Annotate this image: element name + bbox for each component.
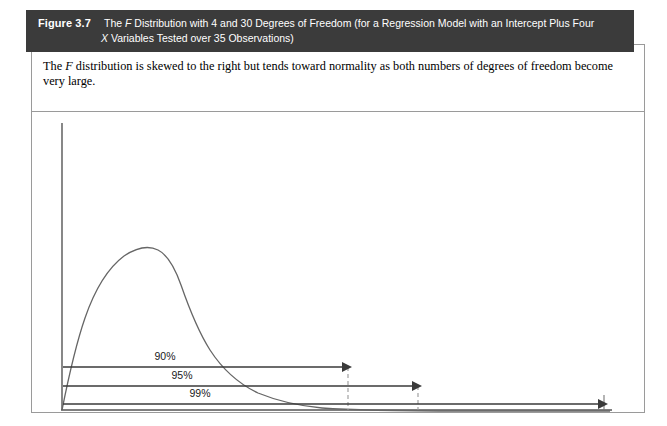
confidence-arrow-90-head (342, 362, 352, 372)
confidence-arrow-99-head (598, 399, 608, 409)
figure-title-line-2-text: Variables Tested over 35 Observations) (108, 32, 294, 44)
figure-title-line-2: X Variables Tested over 35 Observations) (38, 31, 622, 46)
figure-caption: The F distribution is skewed to the righ… (43, 59, 633, 89)
confidence-arrow-95-head (412, 381, 422, 391)
figure-title-banner: Figure 3.7The F Distribution with 4 and … (26, 10, 634, 52)
confidence-label-90: 90% (154, 350, 175, 362)
f-distribution-chart: 90% 95% 99% 2.14 2.69 4.02 F statistic (32, 112, 644, 412)
caption-f-symbol: F (65, 59, 73, 73)
figure-title-x-symbol: X (101, 32, 108, 44)
plot-area: 90% 95% 99% 2.14 2.69 4.02 F statistic (32, 112, 644, 412)
figure-number: Figure 3.7 (38, 17, 91, 29)
caption-text-b: distribution is skewed to the right but … (43, 59, 613, 88)
caption-text-a: The (43, 59, 65, 73)
figure-container: The F distribution is skewed to the righ… (26, 10, 645, 413)
figure-title-text-a: The (104, 17, 125, 29)
figure-title-line-1: Figure 3.7The F Distribution with 4 and … (38, 16, 622, 31)
figure-body-panel: The F distribution is skewed to the righ… (31, 44, 645, 413)
confidence-label-95: 95% (171, 369, 192, 381)
confidence-label-99: 99% (189, 387, 210, 399)
figure-title-text-b: Distribution with 4 and 30 Degrees of Fr… (131, 17, 594, 29)
